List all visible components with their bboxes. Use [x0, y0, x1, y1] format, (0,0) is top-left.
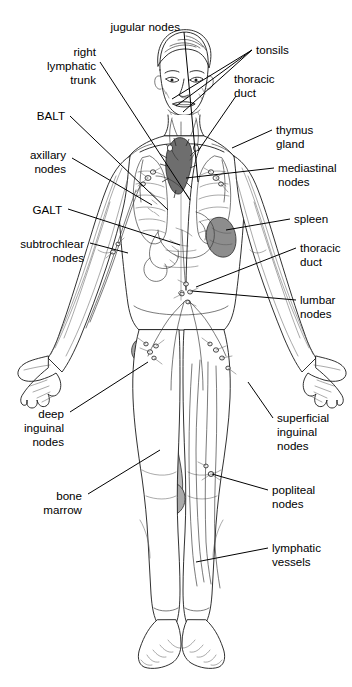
- label-deep-inguinal-nodes-line1: deep: [38, 407, 64, 420]
- label-lymphatic-vessels-line2: vessels: [272, 555, 311, 568]
- label-deep-inguinal-nodes-line2: inguinal: [24, 421, 64, 434]
- label-balt: BALT: [37, 109, 65, 122]
- label-deep-inguinal-nodes-line3: nodes: [32, 435, 64, 448]
- label-lymphatic-vessels-line1: lymphatic: [272, 541, 321, 554]
- label-thoracic-duct-lower-line1: thoracic: [300, 241, 341, 254]
- label-tonsils: tonsils: [256, 43, 289, 56]
- label-thymus-gland-line2: gland: [276, 137, 304, 150]
- label-popliteal-nodes-line1: popliteal: [272, 483, 315, 496]
- label-jugular-nodes: jugular nodes: [109, 20, 180, 33]
- lymphatic-system-diagram: jugular nodes right lymphatic trunk BALT…: [0, 0, 352, 687]
- label-bone-marrow-line2: marrow: [43, 503, 82, 516]
- label-galt: GALT: [33, 203, 62, 216]
- diagram-canvas: jugular nodes right lymphatic trunk BALT…: [0, 0, 352, 687]
- label-superficial-inguinal-nodes-line1: superficial: [277, 411, 329, 424]
- label-right-lymphatic-trunk-line1: right: [73, 45, 96, 58]
- label-lumbar-nodes-line2: nodes: [300, 307, 332, 320]
- label-superficial-inguinal-nodes-line3: nodes: [277, 439, 309, 452]
- label-axillary-nodes-line2: nodes: [34, 162, 66, 175]
- label-mediastinal-nodes-line2: nodes: [278, 175, 310, 188]
- label-thymus-gland-line1: thymus: [276, 123, 314, 136]
- label-bone-marrow-line1: bone: [56, 489, 82, 502]
- label-popliteal-nodes-line2: nodes: [272, 497, 304, 510]
- label-mediastinal-nodes-line1: mediastinal: [278, 161, 337, 174]
- label-axillary-nodes-line1: axillary: [30, 148, 66, 161]
- label-lumbar-nodes-line1: lumbar: [300, 293, 336, 306]
- label-right-lymphatic-trunk-line2: lymphatic: [47, 59, 96, 72]
- label-right-lymphatic-trunk-line3: trunk: [70, 73, 96, 86]
- label-spleen: spleen: [294, 212, 328, 225]
- label-thoracic-duct-upper-line1: thoracic: [234, 72, 275, 85]
- label-thoracic-duct-upper-line2: duct: [234, 86, 257, 99]
- label-subtrochlear-nodes-line2: nodes: [52, 251, 84, 264]
- label-superficial-inguinal-nodes-line2: inguinal: [277, 425, 317, 438]
- label-thoracic-duct-lower-line2: duct: [300, 255, 323, 268]
- label-subtrochlear-nodes-line1: subtrochlear: [20, 237, 84, 250]
